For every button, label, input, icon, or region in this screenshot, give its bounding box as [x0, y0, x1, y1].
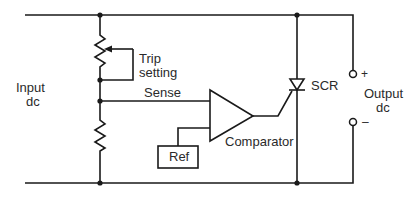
output-label: Output: [364, 86, 403, 101]
plus-label: +: [361, 67, 368, 81]
comparator-output-wire: [253, 91, 292, 116]
junction-dot: [294, 180, 299, 185]
junction-dot: [294, 12, 299, 17]
ref-wire: [178, 128, 210, 146]
scr: [289, 15, 305, 183]
input-dc-label: dc: [26, 94, 40, 109]
crowbar-circuit-diagram: Input dc Trip setting Sense Ref Comparat…: [0, 0, 420, 197]
junction-dot: [97, 180, 102, 185]
comparator-label: Comparator: [225, 134, 294, 149]
trip-label: Trip: [139, 51, 161, 66]
lower-resistor: [95, 117, 105, 183]
junction-dot: [97, 12, 102, 17]
top-rail: [25, 15, 353, 71]
sense-label: Sense: [144, 85, 181, 100]
output-plus-terminal: [350, 71, 357, 78]
output-minus-terminal: [350, 119, 357, 126]
input-label: Input: [16, 80, 45, 95]
scr-diode-icon: [290, 79, 304, 90]
output-dc-label: dc: [376, 100, 390, 115]
minus-label: –: [362, 115, 369, 129]
trip-setting-label: setting: [139, 65, 177, 80]
ref-label: Ref: [169, 149, 190, 164]
scr-label: SCR: [311, 78, 338, 93]
junction-dot: [97, 77, 102, 82]
trip-potentiometer: [95, 15, 133, 80]
junction-dot: [97, 98, 102, 103]
wiper-loop: [100, 49, 133, 80]
